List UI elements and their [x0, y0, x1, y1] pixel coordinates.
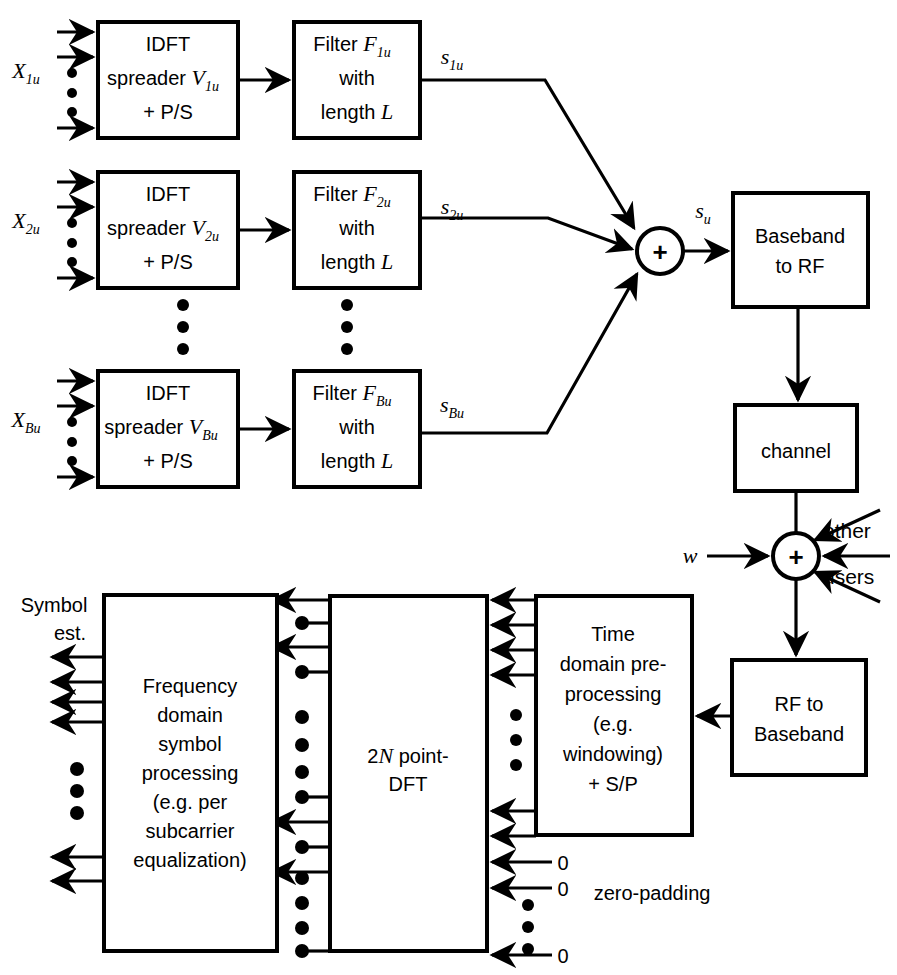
time-domain-line-5: + S/P [588, 773, 637, 795]
txB-idft-line1: IDFT [146, 382, 190, 404]
dft-fd-dot-4 [295, 840, 309, 854]
dft-fd-ellipsis-dot-5 [295, 896, 309, 910]
fd-line-5: subcarrier [146, 820, 235, 842]
symbol-est-ellipsis-dot-1 [70, 762, 84, 776]
tx2-filter-line2: with [338, 217, 375, 239]
tx1-input-ellipsis-dot-1 [67, 68, 77, 78]
txB-filter-line2: with [338, 416, 375, 438]
rf-to-baseband-block[interactable] [732, 660, 866, 775]
time-domain-line-3: (e.g. [593, 713, 633, 735]
symbol-est-ellipsis-dot-3 [70, 806, 84, 820]
other-label: other [823, 519, 871, 542]
time-domain-line-4: windowing) [562, 743, 663, 765]
fd-line-1: domain [157, 704, 223, 726]
tx1-input-ellipsis-dot-3 [67, 107, 77, 117]
noise-w-label: w [683, 543, 698, 568]
dft-line2: DFT [389, 773, 428, 795]
tx1-idft-line1: IDFT [146, 33, 190, 55]
receiver-freq-domain: Frequency domain symbol processing (e.g.… [104, 595, 277, 951]
fd-line-3: processing [142, 762, 239, 784]
fd-line-2: symbol [158, 733, 221, 755]
txB-input-ellipsis-dot-2 [67, 437, 77, 447]
zero-pad-ellipsis-dot-1 [522, 899, 534, 911]
tx-filter-ellipsis-dot-2 [341, 321, 353, 333]
dft-input-ellipsis-dot-2 [510, 734, 522, 746]
txB-filter-line3: length L [321, 448, 393, 473]
baseband-to-rf-line1: Baseband [755, 225, 845, 247]
txB-input-ellipsis-dot-3 [67, 456, 77, 466]
dft-fd-dot-3 [295, 790, 309, 804]
time-domain-line-0: Time [591, 623, 635, 645]
fd-line-4: (e.g. per [153, 791, 228, 813]
zero-label-2: 0 [557, 878, 568, 900]
tx-filter-ellipsis-dot-1 [341, 299, 353, 311]
fd-line-0: Frequency [143, 675, 238, 697]
dft-input-ellipsis-mid [510, 709, 522, 771]
tx1-idft-line3: + P/S [143, 101, 192, 123]
tx2-input-ellipsis-dot-1 [67, 218, 77, 228]
symbol-est-line1: Symbol [21, 594, 88, 616]
dft-fd-ellipsis-dot-3 [295, 765, 309, 779]
dft-fd-ellipsis-dot-4 [295, 871, 309, 885]
dft-fd-dot-1 [295, 616, 309, 630]
tx2-input-ellipsis-dot-2 [67, 238, 77, 248]
tx2-input-ellipsis-dot-3 [67, 257, 77, 267]
txB-input-ellipsis-dot-1 [67, 417, 77, 427]
time-domain-line-2: processing [565, 683, 662, 705]
symbol-est-line2: est. [54, 622, 86, 644]
receiver-dft: 2N point- DFT [330, 596, 487, 951]
zero-pad-ellipsis-dot-2 [522, 921, 534, 933]
tx1-filter-line3: length L [321, 99, 393, 124]
channel-label: channel [761, 440, 831, 462]
tx1-filter-line2: with [338, 67, 375, 89]
zero-label-3: 0 [557, 945, 568, 967]
symbol-est-ellipsis-dot-2 [70, 784, 84, 798]
dft-fd-ellipsis-dot-1 [295, 710, 309, 724]
dft-fd-ellipsis-dot-2 [295, 738, 309, 752]
tx-spreader-ellipsis-dot-3 [177, 343, 189, 355]
dft-fd-dot-2 [295, 665, 309, 679]
tx2-idft-line1: IDFT [146, 183, 190, 205]
block-diagram-canvas: X1u IDFT spreader V1u + P/S Filter F1u w… [0, 0, 897, 975]
baseband-to-rf-line2: to RF [776, 255, 825, 277]
noise-summer-plus-icon: + [788, 542, 803, 572]
rf-to-baseband-line1: RF to [775, 693, 824, 715]
tx-filter-ellipsis-dot-3 [341, 343, 353, 355]
tx-summer-plus-icon: + [652, 237, 667, 267]
zero-pad-ellipsis-dot-3 [522, 943, 534, 955]
dft-input-ellipsis-dot-1 [510, 709, 522, 721]
time-domain-line-1: domain pre- [560, 653, 667, 675]
dft-fd-dot-5 [295, 944, 309, 958]
receiver-time-domain: Time domain pre- processing (e.g. window… [536, 596, 692, 835]
tx-spreader-ellipsis-dot-1 [177, 299, 189, 311]
zero-padding-label: zero-padding [594, 882, 711, 904]
tx2-filter-line3: length L [321, 249, 393, 274]
tx2-idft-line3: + P/S [143, 251, 192, 273]
tx1-input-ellipsis-dot-2 [67, 88, 77, 98]
users-label: users [823, 565, 874, 588]
dft-fd-ellipsis-dot-6 [295, 921, 309, 935]
dft-input-ellipsis-dot-3 [510, 759, 522, 771]
zero-label-1: 0 [557, 852, 568, 874]
rf-to-baseband-line2: Baseband [754, 723, 844, 745]
baseband-to-rf-block[interactable] [733, 193, 868, 307]
dft-line1: 2N point- [367, 743, 448, 768]
diagram-svg: X1u IDFT spreader V1u + P/S Filter F1u w… [0, 0, 897, 975]
fd-line-6: equalization) [133, 849, 246, 871]
tx-spreader-ellipsis-dot-2 [177, 321, 189, 333]
txB-idft-line3: + P/S [143, 450, 192, 472]
